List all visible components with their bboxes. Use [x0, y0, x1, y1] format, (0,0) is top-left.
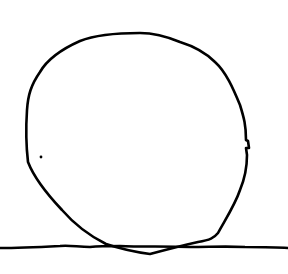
hand-drawn-circle: [26, 33, 249, 254]
small-dot-mark: [40, 156, 43, 159]
sketch-svg: [0, 0, 288, 274]
sketch-canvas: [0, 0, 288, 274]
ground-line: [0, 246, 288, 248]
